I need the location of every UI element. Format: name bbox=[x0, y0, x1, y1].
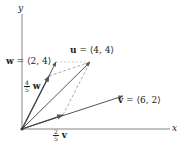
vector-u bbox=[22, 62, 90, 129]
dashed-line bbox=[63, 62, 90, 115]
label-w: w = ⟨2, 4⟩ bbox=[6, 57, 51, 66]
vector-diagram bbox=[0, 0, 184, 145]
label-two-fifths-v: 25 v bbox=[53, 129, 67, 142]
origin-point bbox=[21, 128, 24, 131]
label-four-fifths-w: 45 w bbox=[24, 80, 40, 93]
label-v: v = ⟨6, 2⟩ bbox=[118, 96, 161, 105]
x-axis-label: x bbox=[172, 124, 177, 133]
y-axis-label: y bbox=[18, 4, 23, 13]
label-u: u = ⟨4, 4⟩ bbox=[70, 46, 114, 55]
